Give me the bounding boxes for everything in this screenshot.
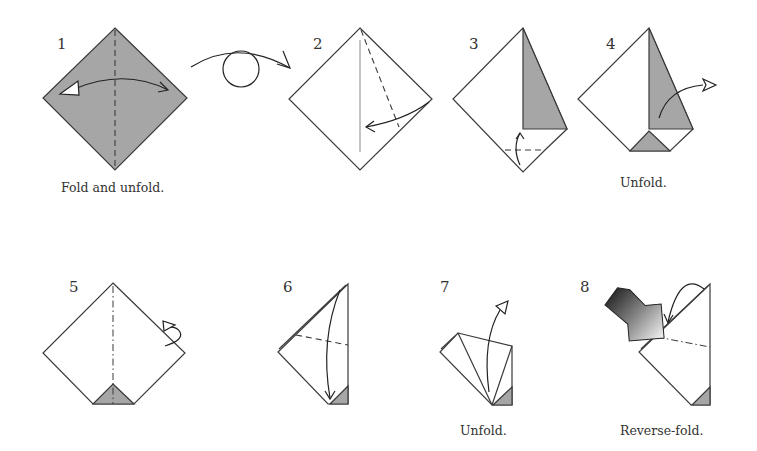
paper-shape — [440, 333, 512, 405]
arrowhead-icon — [277, 51, 290, 68]
folded-flap-colored — [523, 28, 567, 129]
hollow-arrowhead-icon — [496, 301, 508, 314]
step-caption: Unfold. — [460, 423, 507, 438]
step-6: 6 — [278, 278, 348, 404]
step-3: 3 — [453, 28, 567, 172]
step-number: 7 — [440, 278, 450, 296]
folded-flap-colored — [649, 28, 693, 129]
step-8: 8 Reverse-fold. — [580, 278, 710, 438]
push-arrow-icon — [604, 284, 664, 343]
step-4: 4 Unfold. — [578, 28, 716, 190]
hollow-arrowhead-icon — [163, 321, 175, 331]
turn-over-symbol — [191, 51, 290, 87]
step-number: 6 — [283, 278, 293, 296]
hollow-arrowhead-icon — [703, 79, 716, 91]
step-number: 1 — [57, 35, 67, 53]
paper-shape — [278, 284, 348, 404]
step-1: 1 Fold and unfold. — [43, 28, 187, 195]
step-number: 3 — [469, 35, 479, 53]
turn-over-arrow — [191, 53, 290, 68]
step-caption: Fold and unfold. — [61, 180, 164, 195]
step-5: 5 — [43, 278, 185, 404]
step-number: 8 — [580, 278, 590, 296]
step-2: 2 — [289, 28, 432, 170]
step-7: 7 Unfold. — [440, 278, 512, 438]
step-caption: Reverse-fold. — [620, 423, 703, 438]
step-number: 2 — [313, 35, 323, 53]
step-caption: Unfold. — [620, 175, 667, 190]
turn-over-circle-icon — [223, 51, 259, 87]
step-number: 5 — [69, 278, 79, 296]
step-number: 4 — [606, 35, 616, 53]
origami-diagram: 1 Fold and unfold. 2 3 4 — [0, 0, 757, 451]
